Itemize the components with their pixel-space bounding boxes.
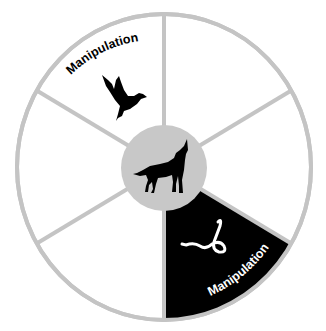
wheel-diagram: Manipulation Manipulation [0, 0, 326, 331]
